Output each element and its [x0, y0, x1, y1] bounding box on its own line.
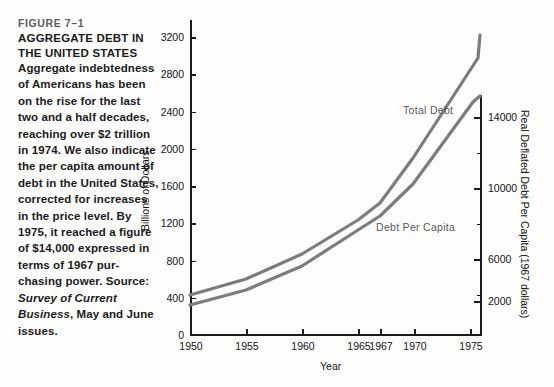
y-tick-label-2400: 2400	[152, 106, 184, 118]
x-tick-1950	[190, 329, 192, 335]
y-tick-label-2800: 2800	[152, 68, 184, 80]
y-axis-left-title: Billions of Dollars	[139, 150, 151, 231]
y-tick-label-3200: 3200	[152, 31, 184, 43]
series-line-debt-per-capita	[190, 96, 480, 305]
y2-tick-label-14000: 14000	[488, 111, 517, 123]
y-tick-2000	[190, 149, 196, 151]
y2-tick-14000	[474, 117, 482, 119]
y-tick-label-1600: 1600	[152, 180, 184, 192]
y2-tick-label-2000: 2000	[488, 295, 511, 307]
figure-page: FIGURE 7–1 AGGREGATE DEBT IN THE UNITED …	[0, 0, 554, 387]
x-tick-label-1967: 1967	[365, 340, 397, 352]
y2-tick-12000	[477, 153, 482, 155]
x-tick-label-1960: 1960	[287, 340, 319, 352]
x-tick-1965	[358, 329, 360, 335]
y-axis-right-title: Real Deflated Debt Per Capita (1967 doll…	[519, 110, 531, 318]
x-tick-label-1955: 1955	[231, 340, 263, 352]
y2-tick-8000	[477, 224, 482, 226]
series-label-total-debt: Total Debt	[403, 104, 453, 116]
y-tick-label-1200: 1200	[152, 217, 184, 229]
x-tick-1967	[380, 329, 382, 335]
x-tick-1975	[470, 329, 472, 335]
y-tick-2800	[190, 74, 196, 76]
y-tick-label-400: 400	[152, 292, 184, 304]
y2-tick-2000	[474, 301, 482, 303]
y-tick-1600	[190, 186, 196, 188]
series-label-debt-per-capita: Debt Per Capita	[376, 221, 455, 233]
y2-tick-4000	[477, 295, 482, 297]
y-tick-label-800: 800	[152, 255, 184, 267]
y-tick-label-2000: 2000	[152, 143, 184, 155]
x-tick-1955	[246, 329, 248, 335]
y-tick-3200	[190, 37, 196, 39]
y-tick-400	[190, 298, 196, 300]
x-tick-1960	[302, 329, 304, 335]
x-tick-label-1950: 1950	[175, 340, 207, 352]
y-tick-800	[190, 261, 196, 263]
y2-tick-label-6000: 6000	[488, 253, 511, 265]
x-axis-title: Year	[320, 360, 341, 372]
series-line-total-debt	[190, 35, 480, 295]
x-tick-1970	[414, 329, 416, 335]
y2-tick-label-10000: 10000	[488, 182, 517, 194]
x-tick-label-1975: 1975	[455, 340, 487, 352]
y2-tick-10000	[474, 188, 482, 190]
y-tick-1200	[190, 223, 196, 225]
chart-plot-area: Total Debt Debt Per Capita 3200 2800 240…	[0, 0, 554, 387]
x-tick-label-1970: 1970	[399, 340, 431, 352]
y-tick-2400	[190, 112, 196, 114]
y2-tick-6000	[474, 259, 482, 261]
